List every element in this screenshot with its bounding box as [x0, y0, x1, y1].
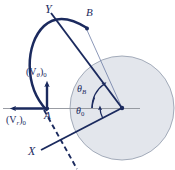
axis-label-x: X	[28, 145, 35, 157]
angle-theta-0-label: θ0	[76, 106, 84, 118]
figure-canvas	[0, 0, 175, 170]
velocity-theta-open-paren: (V	[26, 66, 37, 77]
orbital-transfer-figure: Y X B A (Vθ)0 (Vr)0 θB θ0	[0, 0, 175, 170]
point-label-b: B	[86, 7, 93, 18]
velocity-theta-label: (Vθ)0	[26, 67, 47, 79]
point-label-a: A	[44, 110, 51, 121]
angle-theta-0-subscript: 0	[81, 110, 84, 117]
velocity-r-label: (Vr)0	[6, 115, 26, 127]
axis-label-y: Y	[45, 3, 52, 15]
velocity-r-open-paren: (V	[6, 114, 17, 125]
velocity-r-zero: 0	[23, 119, 26, 126]
angle-theta-b-subscript: B	[82, 88, 86, 95]
velocity-theta-zero: 0	[43, 71, 46, 78]
point-b-dot	[85, 27, 89, 31]
angle-theta-b-label: θB	[77, 84, 86, 96]
focus-center-point	[120, 106, 124, 110]
